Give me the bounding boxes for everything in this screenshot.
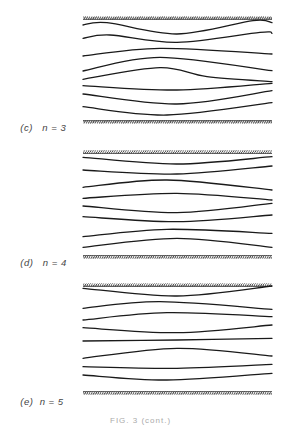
streamline-7 — [83, 364, 272, 368]
streamline-1 — [83, 20, 272, 34]
streamline-6 — [83, 83, 272, 90]
panel-e-label: (e) n = 5 — [14, 385, 64, 407]
panel-d-mode: n = 4 — [43, 257, 67, 268]
streamline-8 — [83, 373, 272, 380]
panel-d — [83, 150, 272, 258]
panel-e-id: (e) — [20, 396, 33, 407]
streamline-1 — [83, 157, 272, 164]
streamline-2 — [83, 302, 272, 310]
panel-c-label: (c) n = 3 — [14, 111, 66, 133]
streamline-3 — [83, 180, 272, 190]
streamline-5 — [83, 338, 272, 341]
panel-d-label: (d) n = 4 — [14, 246, 67, 268]
streamline-7 — [83, 229, 272, 236]
panel-d-id: (d) — [20, 257, 33, 268]
streamline-6 — [83, 348, 272, 358]
streamline-1 — [83, 286, 272, 296]
panel-e-mode: n = 5 — [40, 396, 64, 407]
figure-caption: FIG. 3 (cont.) — [110, 416, 171, 425]
panel-c-mode: n = 3 — [42, 122, 66, 133]
streamline-2 — [83, 166, 272, 174]
panel-c — [83, 16, 272, 123]
streamline-4 — [83, 325, 272, 333]
streamline-7 — [83, 91, 272, 104]
streamline-3 — [83, 313, 272, 320]
panel-c-id: (c) — [20, 122, 33, 133]
streamline-8 — [83, 238, 272, 247]
streamline-5 — [83, 68, 272, 82]
streamline-6 — [83, 215, 272, 222]
panel-e — [83, 283, 272, 394]
streamline-3 — [83, 48, 272, 56]
streamline-4 — [83, 193, 272, 200]
streamline-5 — [83, 203, 272, 212]
